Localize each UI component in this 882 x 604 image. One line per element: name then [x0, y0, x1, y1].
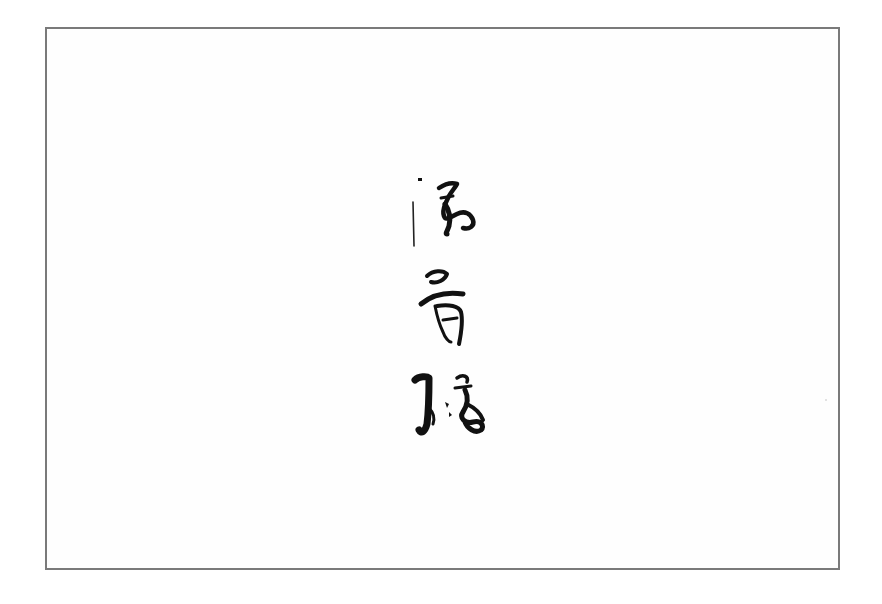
- calligraphy-character-2: [409, 264, 489, 354]
- calligraphy-character-1: [405, 174, 485, 254]
- calligraphy-character-3: [409, 364, 499, 444]
- paper-speck: [825, 399, 827, 401]
- calligraphy-frame: [45, 27, 840, 570]
